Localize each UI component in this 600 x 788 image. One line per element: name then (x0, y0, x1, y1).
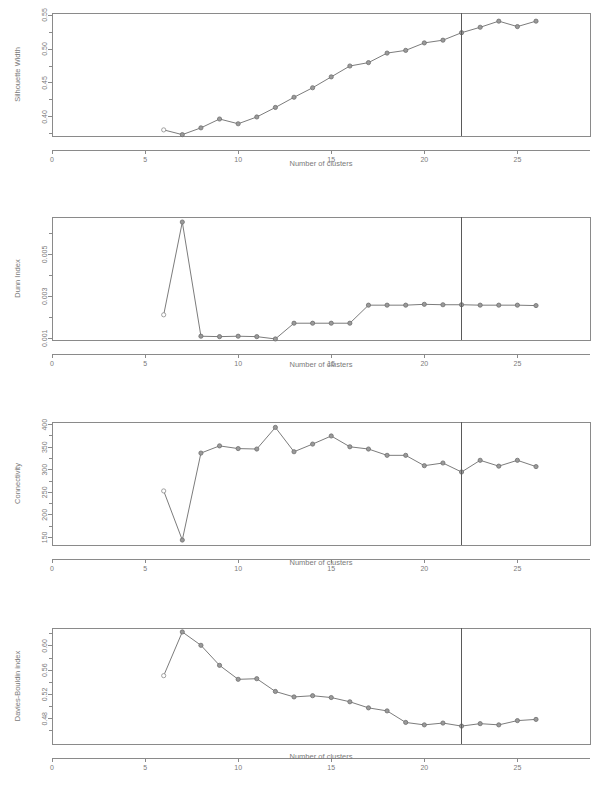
y-tick-label: 0.48 (41, 712, 48, 726)
data-point (273, 105, 277, 109)
y-tick-label: 350 (41, 441, 48, 453)
x-axis-title: Number of clusters (290, 752, 353, 761)
x-tick-label: 25 (513, 565, 521, 572)
plot-panel-4: 0.480.520.560.600510152025Davies-Bouldin… (0, 596, 600, 788)
data-point (366, 706, 370, 710)
data-point (385, 303, 389, 307)
data-point (199, 334, 203, 338)
y-tick-label: 400 (41, 419, 48, 431)
data-point (366, 303, 370, 307)
x-tick-label: 25 (513, 156, 521, 163)
x-tick-label: 0 (50, 360, 54, 367)
x-tick-label: 0 (50, 764, 54, 771)
data-point (422, 464, 426, 468)
y-tick-label: 0.50 (41, 42, 48, 56)
data-point (329, 321, 333, 325)
data-point (292, 321, 296, 325)
data-point (255, 115, 259, 119)
x-tick-label: 0 (50, 156, 54, 163)
data-point (311, 321, 315, 325)
x-tick-label: 25 (513, 764, 521, 771)
data-point (329, 75, 333, 79)
data-point (441, 303, 445, 307)
data-point (217, 335, 221, 339)
data-point (348, 445, 352, 449)
data-point (497, 19, 501, 23)
plot-panel-3: 1502002503003504000510152025Connectivity… (0, 399, 600, 596)
data-point (162, 313, 166, 317)
x-tick-label: 20 (420, 360, 428, 367)
data-point (497, 464, 501, 468)
data-point (478, 303, 482, 307)
data-point (515, 24, 519, 28)
data-point (515, 303, 519, 307)
series-line (164, 632, 536, 726)
data-point (180, 133, 184, 137)
data-point (255, 335, 259, 339)
data-point (497, 303, 501, 307)
data-point (311, 442, 315, 446)
data-point (366, 447, 370, 451)
data-point (255, 447, 259, 451)
y-tick-label: 200 (41, 509, 48, 521)
data-point (292, 695, 296, 699)
y-axis-title: Dunn Index (13, 259, 22, 298)
chart-panel-4: 0.480.520.560.600510152025Davies-Bouldin… (0, 596, 600, 788)
y-tick-label: 0.55 (41, 8, 48, 22)
data-point (385, 453, 389, 457)
data-point (441, 461, 445, 465)
x-tick-label: 5 (143, 156, 147, 163)
data-point (404, 453, 408, 457)
data-point (497, 723, 501, 727)
x-tick-label: 5 (143, 764, 147, 771)
data-point (366, 61, 370, 65)
data-point (217, 117, 221, 121)
chart-panel-2: 0.0010.0030.0050510152025Dunn IndexNumbe… (0, 199, 600, 399)
y-tick-label: 300 (41, 464, 48, 476)
data-point (180, 220, 184, 224)
data-point (292, 95, 296, 99)
data-point (404, 303, 408, 307)
data-point (273, 425, 277, 429)
data-point (385, 51, 389, 55)
x-tick-label: 10 (234, 156, 242, 163)
x-tick-label: 5 (143, 565, 147, 572)
data-point (534, 303, 538, 307)
data-point (311, 86, 315, 90)
data-point (217, 444, 221, 448)
data-point (273, 337, 277, 341)
data-point (162, 128, 166, 132)
plot-panel-1: 0.400.450.500.550510152025Silhouette Wid… (0, 0, 600, 199)
data-point (292, 450, 296, 454)
data-point (236, 677, 240, 681)
data-point (422, 302, 426, 306)
data-point (478, 722, 482, 726)
chart-panel-1: 0.400.450.500.550510152025Silhouette Wid… (0, 0, 600, 199)
data-point (217, 663, 221, 667)
data-point (162, 674, 166, 678)
plot-box (52, 217, 590, 340)
y-tick-label: 0.001 (41, 329, 48, 347)
x-tick-label: 0 (50, 565, 54, 572)
chart-panel-3: 1502002503003504000510152025Connectivity… (0, 399, 600, 596)
x-tick-label: 15 (327, 764, 335, 771)
data-point (478, 25, 482, 29)
data-point (478, 458, 482, 462)
data-point (404, 48, 408, 52)
data-point (273, 689, 277, 693)
data-point (199, 643, 203, 647)
y-tick-label: 0.40 (41, 110, 48, 124)
x-axis-title: Number of clusters (290, 159, 353, 168)
y-tick-label: 250 (41, 486, 48, 498)
plot-panel-2: 0.0010.0030.0050510152025Dunn IndexNumbe… (0, 199, 600, 399)
data-point (199, 126, 203, 130)
y-tick-label: 0.52 (41, 688, 48, 702)
x-tick-label: 10 (234, 764, 242, 771)
data-point (422, 41, 426, 45)
y-tick-label: 0.45 (41, 76, 48, 90)
x-axis-title: Number of clusters (290, 558, 353, 567)
y-axis-title: Silhouette Width (13, 47, 22, 102)
data-point (180, 538, 184, 542)
data-point (329, 434, 333, 438)
x-tick-label: 10 (234, 565, 242, 572)
